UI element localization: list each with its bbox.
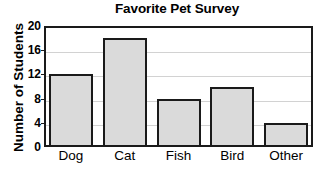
x-axis-tick-label-fish: Fish	[152, 148, 206, 163]
y-axis-tick-label: 4	[1, 117, 41, 129]
y-axis-tick-label: 0	[1, 141, 41, 153]
y-axis-tick-label: 20	[1, 20, 41, 32]
y-axis-tick-label: 12	[1, 68, 41, 80]
bar-fish	[157, 99, 201, 147]
y-axis-tick-label: 8	[1, 93, 41, 105]
y-axis-tick-labels: 048121620	[0, 26, 41, 147]
x-axis-tick-labels: DogCatFishBirdOther	[44, 148, 313, 170]
x-axis-tick-label-dog: Dog	[44, 148, 98, 163]
bar-chart-figure: Favorite Pet Survey Number of Students 0…	[0, 0, 322, 177]
bar-other	[264, 123, 308, 147]
x-axis-tick-label-bird: Bird	[205, 148, 259, 163]
y-axis-tick-label: 16	[1, 44, 41, 56]
chart-title: Favorite Pet Survey	[40, 1, 314, 16]
x-axis-tick-label-other: Other	[259, 148, 313, 163]
bar-cat	[103, 38, 147, 147]
bar-bird	[210, 87, 254, 148]
bar-dog	[49, 74, 93, 147]
bars-layer	[44, 26, 313, 147]
x-axis-tick-label-cat: Cat	[98, 148, 152, 163]
